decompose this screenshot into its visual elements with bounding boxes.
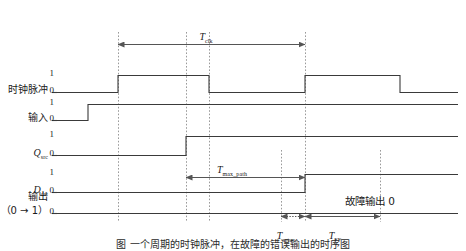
signal-label-output: 输出: [28, 192, 48, 202]
signal-label-clock: 时钟脉冲: [8, 85, 48, 95]
guide-lines: [119, 32, 381, 222]
level-high-clock: 1: [50, 69, 55, 78]
level-low-clock: 0: [50, 86, 55, 95]
timing-diagram-figure: 时钟脉冲10输入10Qsrc10Ddst10输出（0 → 1）0TclkTmax…: [0, 0, 466, 251]
level-high-d-dst: 1: [50, 168, 55, 177]
level-high-q-src: 1: [50, 130, 55, 139]
signal-label-q-src: Qsrc: [33, 148, 48, 160]
figure-caption: 图 一个周期的时钟脉冲，在故障的错误输出的时序图: [0, 236, 466, 251]
signal-label2-output: （0 → 1）: [1, 206, 48, 216]
level-high-input: 1: [50, 98, 55, 107]
signal-label-input: 输入: [28, 113, 48, 123]
waveform-clock: [57, 76, 458, 93]
measure-arrows: [118, 45, 380, 217]
measure-label-t-clk: Tclk: [199, 27, 212, 44]
waveforms: [52, 76, 458, 214]
annotation-fault-output: 故障输出 0: [345, 196, 395, 208]
waveform-input: [57, 105, 458, 121]
level-low-input: 0: [50, 114, 55, 123]
level-low-d-dst: 0: [50, 186, 55, 195]
measure-label-t-max-path: Tmax_path: [217, 160, 247, 177]
level-low-q-src: 0: [50, 149, 55, 158]
waveform-canvas: [0, 0, 466, 251]
level-low-output: 0: [50, 207, 55, 216]
waveform-q-src: [57, 137, 458, 156]
